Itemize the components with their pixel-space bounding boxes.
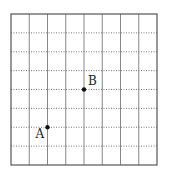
point-a (45, 125, 49, 129)
point-label-a: A (35, 127, 45, 141)
grid-diagram: AB (0, 0, 169, 178)
point-b (82, 87, 86, 91)
point-label-b: B (88, 74, 97, 88)
